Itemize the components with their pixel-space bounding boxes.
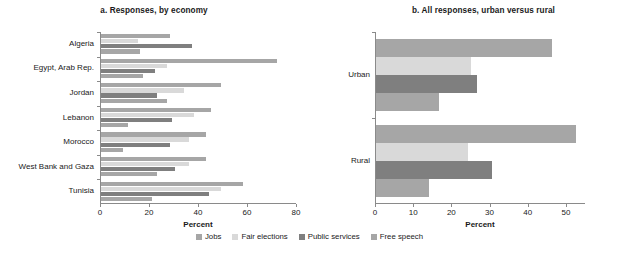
bar [101, 83, 221, 87]
x-axis-tick [375, 204, 376, 207]
y-axis-tick [97, 81, 101, 82]
bar [101, 44, 192, 48]
bar-group [101, 81, 296, 106]
bar [101, 197, 152, 201]
bar [101, 172, 157, 176]
bar [101, 49, 140, 53]
bar [101, 143, 170, 147]
bar [101, 132, 206, 136]
panel-urban-versus-rural: b. All responses, urban versus rural Urb… [330, 0, 619, 228]
plot-area-a [100, 32, 296, 204]
bar [101, 39, 138, 43]
bar [101, 59, 277, 63]
legend-label: Public services [308, 232, 360, 241]
bar [376, 75, 477, 93]
y-axis-tick [97, 106, 101, 107]
bar-group [376, 118, 585, 204]
x-axis-title: Percent [100, 220, 296, 229]
bar-group [376, 32, 585, 118]
category-label: Tunisia [0, 187, 94, 195]
y-axis-tick [97, 57, 101, 58]
category-label: Egypt, Arab Rep. [0, 64, 94, 72]
bar [101, 74, 143, 78]
category-label: Algeria [0, 40, 94, 48]
bar [101, 69, 155, 73]
x-axis-tick-label: 50 [561, 209, 570, 217]
x-axis-tick [296, 204, 297, 207]
bar [376, 125, 576, 143]
legend-swatch-icon [371, 234, 377, 240]
x-axis-tick [413, 204, 414, 207]
legend-swatch-icon [232, 234, 238, 240]
x-axis-tick [566, 204, 567, 207]
bar-group [101, 106, 296, 131]
bar-group [101, 179, 296, 204]
panel-b-title: b. All responses, urban versus rural [339, 6, 619, 15]
bar-group [101, 130, 296, 155]
category-label: Urban [330, 71, 370, 79]
bar [376, 143, 468, 161]
legend-swatch-icon [299, 234, 305, 240]
x-axis-tick-label: 30 [485, 209, 494, 217]
y-axis-tick [97, 130, 101, 131]
x-axis-tick [451, 204, 452, 207]
legend-item[interactable]: Fair elections [232, 232, 287, 241]
bar-group [101, 32, 296, 57]
x-axis-tick-label: 20 [447, 209, 456, 217]
bar [101, 137, 189, 141]
bar [101, 108, 211, 112]
bar [101, 162, 189, 166]
bar [101, 192, 209, 196]
y-axis-tick [372, 32, 376, 33]
y-axis-tick [97, 32, 101, 33]
category-label: Morocco [0, 138, 94, 146]
legend-label: Fair elections [241, 232, 287, 241]
x-axis-tick [149, 204, 150, 207]
bar [101, 34, 170, 38]
bar [101, 187, 221, 191]
category-label: Lebanon [0, 114, 94, 122]
bar [101, 88, 184, 92]
bar-group [101, 155, 296, 180]
bar [376, 57, 471, 75]
plot-area-b [375, 32, 585, 204]
panel-a-title: a. Responses, by economy [0, 6, 319, 15]
x-axis-tick [528, 204, 529, 207]
bar [376, 161, 492, 179]
category-label: Jordan [0, 89, 94, 97]
bar [101, 167, 175, 171]
x-axis-tick-label: 80 [292, 209, 301, 217]
x-axis-tick [198, 204, 199, 207]
x-axis-title: Percent [375, 220, 585, 229]
x-axis-tick [490, 204, 491, 207]
panel-responses-by-economy: a. Responses, by economy AlgeriaEgypt, A… [0, 0, 330, 228]
bar [101, 99, 167, 103]
x-axis-tick [247, 204, 248, 207]
figure: a. Responses, by economy AlgeriaEgypt, A… [0, 0, 619, 259]
bar [376, 39, 552, 57]
x-axis-tick-label: 60 [243, 209, 252, 217]
bar [101, 148, 123, 152]
y-axis-tick [97, 155, 101, 156]
legend-item[interactable]: Free speech [371, 232, 423, 241]
legend-item[interactable]: Public services [299, 232, 360, 241]
bar [101, 113, 194, 117]
bar [101, 118, 172, 122]
legend-swatch-icon [196, 234, 202, 240]
x-axis-tick-label: 0 [98, 209, 102, 217]
x-axis-tick-label: 0 [373, 209, 377, 217]
x-axis-tick-label: 40 [194, 209, 203, 217]
bar [101, 93, 157, 97]
category-label: West Bank and Gaza [0, 163, 94, 171]
x-axis-tick-label: 20 [145, 209, 154, 217]
legend-label: Free speech [380, 232, 423, 241]
x-axis-tick [100, 204, 101, 207]
bar [376, 93, 439, 111]
y-axis-tick [97, 179, 101, 180]
x-axis-tick-label: 40 [523, 209, 532, 217]
bar [101, 157, 206, 161]
bar [376, 179, 429, 197]
bar [101, 123, 128, 127]
x-axis-tick-label: 10 [409, 209, 418, 217]
legend-item[interactable]: Jobs [196, 232, 221, 241]
